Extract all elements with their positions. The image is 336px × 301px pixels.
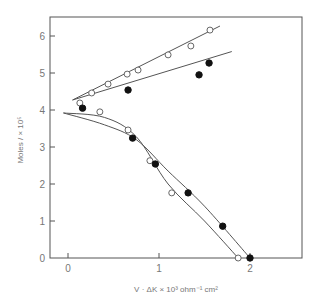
x-axis-label: V · ΔK × 10³ ohm⁻¹ cm² <box>134 285 218 294</box>
open-circle-marker <box>135 67 141 73</box>
open-circle-marker <box>165 52 171 58</box>
fit-line <box>73 26 220 100</box>
open-circle-marker <box>125 127 131 133</box>
open-circle-marker <box>97 109 103 115</box>
y-tick-label: 4 <box>39 105 45 116</box>
open-circle-marker <box>169 190 175 196</box>
filled-circle-marker <box>129 135 135 141</box>
open-circle-marker <box>89 90 95 96</box>
filled-circle-marker <box>79 105 85 111</box>
filled-circle-marker <box>247 255 253 261</box>
y-tick-label: 3 <box>39 142 45 153</box>
filled-circle-marker <box>152 161 158 167</box>
scatter-plot: 0123456012V · ΔK × 10³ ohm⁻¹ cm²Moles / … <box>0 0 336 301</box>
y-tick-label: 6 <box>39 31 45 42</box>
y-tick-label: 2 <box>39 179 45 190</box>
fit-line <box>63 113 250 258</box>
y-tick-label: 1 <box>39 216 45 227</box>
x-tick-label: 0 <box>65 263 71 274</box>
filled-circle-marker <box>125 87 131 93</box>
x-tick-label: 1 <box>156 263 162 274</box>
plot-frame <box>50 17 302 258</box>
open-circle-marker <box>105 81 111 87</box>
open-circle-marker <box>207 27 213 33</box>
filled-circle-marker <box>206 60 212 66</box>
filled-circle-marker <box>185 190 191 196</box>
y-tick-label: 5 <box>39 68 45 79</box>
chart: 0123456012V · ΔK × 10³ ohm⁻¹ cm²Moles / … <box>0 0 336 301</box>
open-circle-marker <box>188 43 194 49</box>
filled-circle-marker <box>196 72 202 78</box>
fit-line <box>63 113 238 258</box>
fit-line <box>73 52 232 100</box>
open-circle-marker <box>235 255 241 261</box>
y-tick-label: 0 <box>39 253 45 264</box>
filled-circle-marker <box>220 223 226 229</box>
open-circle-marker <box>124 71 130 77</box>
x-tick-label: 2 <box>247 263 253 274</box>
y-axis-label: Moles / × 10⁵ <box>16 116 25 163</box>
